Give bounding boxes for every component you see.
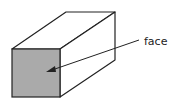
face-label: face [144, 35, 168, 48]
prism-diagram: face [0, 0, 186, 104]
front-face [12, 49, 60, 97]
